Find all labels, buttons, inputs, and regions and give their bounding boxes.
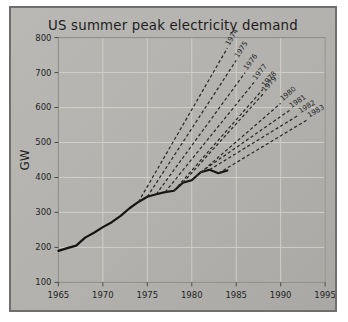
forecast-line-1978	[174, 89, 263, 190]
x-tick-label: 1965	[48, 290, 70, 300]
forecast-line-1976	[156, 73, 245, 195]
y-tick-label: 500	[35, 137, 51, 147]
forecast-line-1981	[201, 110, 290, 172]
y-tick-label: 300	[35, 207, 51, 217]
x-axis-ticks: 1965197019751980198519901995	[48, 282, 335, 300]
x-tick-label: 1980	[181, 290, 203, 300]
chart-figure: US summer peak electricity demand 100200…	[9, 6, 337, 312]
x-tick-label: 1970	[92, 290, 114, 300]
y-tick-label: 600	[35, 103, 51, 113]
electricity-demand-chart: US summer peak electricity demand 100200…	[11, 8, 335, 310]
x-tick-label: 1990	[270, 290, 292, 300]
forecast-line-1977	[165, 82, 254, 192]
y-tick-label: 700	[35, 68, 51, 78]
forecast-label-1975: 1975	[232, 39, 249, 59]
y-axis-title: GW	[18, 149, 32, 170]
actual-demand-line	[58, 170, 227, 251]
x-tick-label: 1995	[314, 290, 335, 300]
chart-title: US summer peak electricity demand	[48, 18, 298, 33]
y-tick-label: 800	[35, 33, 51, 43]
y-axis-ticks: 100200300400500600700800	[35, 33, 58, 288]
y-tick-label: 200	[35, 242, 51, 252]
y-tick-label: 100	[35, 277, 51, 287]
forecast-line-1974	[138, 48, 227, 202]
x-tick-label: 1985	[225, 290, 247, 300]
x-tick-label: 1975	[137, 290, 159, 300]
y-tick-label: 400	[35, 172, 51, 182]
